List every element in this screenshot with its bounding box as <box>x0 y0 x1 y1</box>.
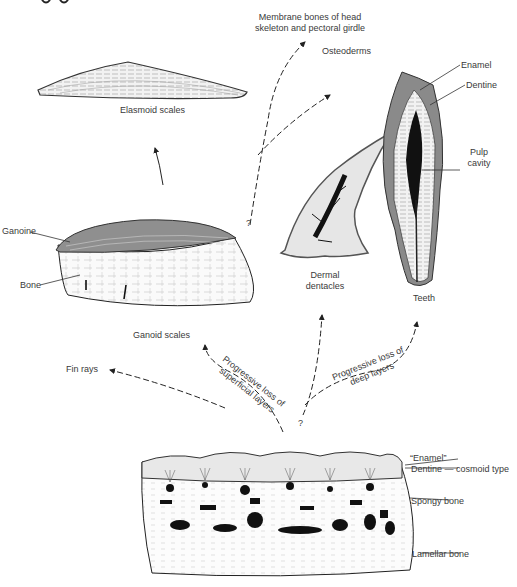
label-elasmoid-scales: Elasmoid scales <box>120 105 185 116</box>
label-pulp-line2: cavity <box>460 158 498 169</box>
label-osteoderms: Osteoderms <box>322 46 371 57</box>
dermal-dentacle-drawing <box>281 132 392 257</box>
label-teeth: Teeth <box>413 293 435 304</box>
arrow-ganoid-to-elasmoid <box>155 148 163 185</box>
label-bone: Bone <box>20 280 41 291</box>
label-lamellar-bone: Lamellar bone <box>412 549 469 560</box>
label-membrane-bones-line1: Membrane bones of head <box>250 12 370 23</box>
label-dermal-dentacles: Dermal dentacles <box>305 270 345 292</box>
ganoid-scale-drawing <box>56 220 254 306</box>
label-membrane-bones: Membrane bones of head skeleton and pect… <box>250 12 370 34</box>
label-membrane-bones-line2: skeleton and pectoral girdle <box>250 23 370 34</box>
title-fragment-glyphs <box>42 0 68 3</box>
uncertain-mark-upper: ? <box>246 218 251 229</box>
label-cosmoid-dentine: Dentine — cosmoid type <box>411 464 509 475</box>
arrow-to-osteoderms <box>258 95 330 155</box>
uncertain-mark-lower: ? <box>298 418 303 429</box>
tooth-drawing <box>383 72 443 286</box>
elasmoid-scale-drawing <box>38 62 247 99</box>
label-pulp-cavity: Pulp cavity <box>460 147 498 169</box>
label-spongy-bone: Spongy bone <box>411 496 464 507</box>
label-dentacles-line1: Dermal <box>305 270 345 281</box>
label-ganoine: Ganoine <box>2 226 36 237</box>
label-tooth-dentine: Dentine <box>466 80 497 91</box>
label-pulp-line1: Pulp <box>460 147 498 158</box>
cosmoid-scale-drawing <box>142 452 414 576</box>
label-dentacles-line2: dentacles <box>305 281 345 292</box>
arrow-to-dermal-dentacles <box>303 315 322 415</box>
label-tooth-enamel: Enamel <box>461 60 492 71</box>
arrow-to-membrane-bones <box>250 42 305 225</box>
label-fin-rays: Fin rays <box>66 364 98 375</box>
label-ganoid-scales: Ganoid scales <box>133 330 190 341</box>
label-cosmoid-enamel: “Enamel” <box>410 453 447 464</box>
arrow-to-fin-rays <box>110 370 225 408</box>
